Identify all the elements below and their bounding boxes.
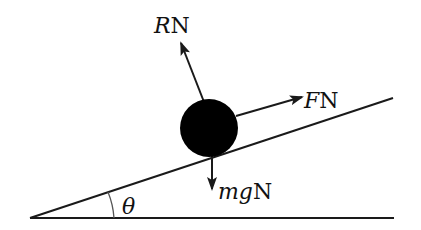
friction-symbol: F — [303, 88, 320, 113]
reaction-force-label: RN — [153, 13, 190, 38]
particle-ball — [180, 99, 238, 157]
friction-force-arrow — [236, 97, 302, 116]
reaction-symbol: R — [153, 13, 171, 38]
reaction-unit: N — [171, 13, 190, 38]
angle-theta-label: θ — [122, 194, 135, 219]
friction-unit: N — [319, 88, 338, 113]
inclined-plane-force-diagram: RN FN mgN θ — [0, 0, 421, 230]
weight-unit: N — [253, 179, 272, 204]
angle-arc — [108, 192, 114, 218]
weight-symbol: mg — [218, 179, 253, 204]
friction-force-label: FN — [303, 88, 339, 113]
reaction-force-arrow — [181, 43, 204, 102]
weight-force-label: mgN — [218, 179, 272, 204]
